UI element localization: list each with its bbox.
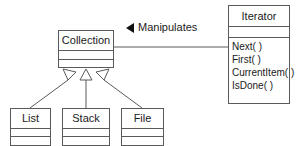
- uml-operations-compartment-collection: [59, 60, 113, 67]
- uml-operations-compartment-file: [122, 137, 163, 145]
- uml-attributes-compartment-file: [122, 129, 163, 137]
- hollow-triangle-icon-file: [96, 69, 109, 80]
- uml-operation: IsDone( ): [232, 79, 289, 92]
- uml-class-name-file: File: [122, 109, 163, 129]
- hollow-triangle-icon-list: [63, 69, 76, 80]
- uml-attributes-compartment-list: [11, 129, 50, 137]
- uml-class-iterator[interactable]: Iterator Next( ) First( ) CurrentItem( )…: [228, 5, 290, 104]
- generalization-line-list: [30, 80, 68, 108]
- uml-class-list[interactable]: List: [10, 108, 51, 146]
- uml-class-name-stack: Stack: [63, 109, 109, 129]
- uml-operations-compartment-stack: [63, 137, 109, 145]
- association-label-text: Manipulates: [138, 22, 197, 33]
- uml-operation: CurrentItem( ): [232, 66, 289, 79]
- generalization-line-file: [104, 80, 142, 108]
- uml-operations-compartment-list: [11, 137, 50, 145]
- uml-class-diagram: Iterator Next( ) First( ) CurrentItem( )…: [0, 0, 296, 146]
- uml-class-name-iterator: Iterator: [229, 6, 289, 27]
- uml-operation: First( ): [232, 53, 289, 66]
- solid-left-triangle-icon: [126, 23, 134, 33]
- uml-attributes-compartment-stack: [63, 129, 109, 137]
- uml-attributes-compartment-iterator: [229, 27, 289, 38]
- uml-attributes-compartment-collection: [59, 51, 113, 60]
- association-label-manipulates: Manipulates: [126, 22, 197, 33]
- uml-class-file[interactable]: File: [121, 108, 164, 146]
- uml-operations-compartment-iterator: Next( ) First( ) CurrentItem( ) IsDone( …: [229, 38, 289, 103]
- uml-class-name-list: List: [11, 109, 50, 129]
- hollow-triangle-icon-stack: [80, 69, 92, 80]
- uml-operations-list-iterator: Next( ) First( ) CurrentItem( ) IsDone( …: [229, 38, 289, 92]
- uml-class-name-collection: Collection: [59, 31, 113, 51]
- uml-class-collection[interactable]: Collection: [58, 30, 114, 68]
- uml-class-stack[interactable]: Stack: [62, 108, 110, 146]
- uml-operation: Next( ): [232, 40, 289, 53]
